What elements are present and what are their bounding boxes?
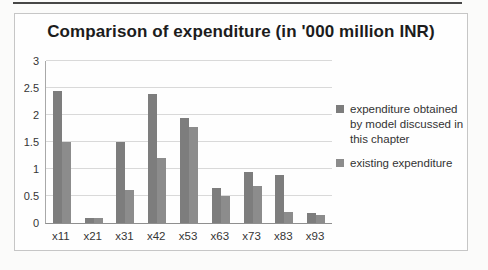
bar-group-x83 bbox=[268, 61, 300, 223]
bar-group-x21 bbox=[78, 61, 110, 223]
y-tick-0: 0 bbox=[33, 217, 39, 229]
y-tick-1: 1 bbox=[33, 163, 39, 175]
x-tick-x53: x53 bbox=[172, 230, 204, 242]
bar-x93-series2 bbox=[316, 215, 325, 223]
bar-x31-series2 bbox=[125, 190, 134, 223]
legend-marker-existing-icon bbox=[336, 159, 344, 167]
x-tick-x21: x21 bbox=[77, 230, 109, 242]
legend-label-model: expenditure obtained by model discussed … bbox=[350, 102, 472, 147]
bar-group-x53 bbox=[173, 61, 205, 223]
x-tick-x83: x83 bbox=[267, 230, 299, 242]
y-tick-2: 2 bbox=[33, 109, 39, 121]
bar-x73-series2 bbox=[253, 186, 262, 223]
x-tick-x31: x31 bbox=[109, 230, 141, 242]
legend-item-existing: existing expenditure bbox=[336, 156, 472, 171]
bar-x21-series2 bbox=[94, 218, 103, 223]
bar-x53-series2 bbox=[189, 127, 198, 223]
plot-area bbox=[45, 61, 332, 224]
y-tick-0.5: 0.5 bbox=[24, 190, 39, 202]
x-tick-x42: x42 bbox=[140, 230, 172, 242]
bar-x93-series1 bbox=[307, 213, 316, 223]
bar-x63-series2 bbox=[221, 196, 230, 223]
chart-title: Comparison of expenditure (in '000 milli… bbox=[21, 22, 461, 42]
bar-group-x93 bbox=[300, 61, 332, 223]
bar-group-x31 bbox=[110, 61, 142, 223]
bar-group-x42 bbox=[141, 61, 173, 223]
bar-x42-series1 bbox=[148, 94, 157, 223]
legend-marker-model-icon bbox=[336, 105, 344, 113]
bar-x53-series1 bbox=[180, 118, 189, 223]
bar-x63-series1 bbox=[212, 188, 221, 223]
legend: expenditure obtained by model discussed … bbox=[336, 102, 472, 171]
bar-x73-series1 bbox=[244, 172, 253, 223]
x-tick-x11: x11 bbox=[45, 230, 77, 242]
legend-label-existing: existing expenditure bbox=[350, 156, 452, 171]
bar-group-x11 bbox=[46, 61, 78, 223]
x-tick-x73: x73 bbox=[236, 230, 268, 242]
x-axis-labels: x11x21x31x42x53x63x73x83x93 bbox=[45, 230, 331, 242]
bar-x42-series2 bbox=[157, 158, 166, 223]
y-tick-1.5: 1.5 bbox=[24, 136, 39, 148]
y-tick-2.5: 2.5 bbox=[24, 82, 39, 94]
bar-x21-series1 bbox=[85, 218, 94, 223]
legend-item-model: expenditure obtained by model discussed … bbox=[336, 102, 472, 147]
chart-frame: Comparison of expenditure (in '000 milli… bbox=[14, 13, 468, 251]
x-tick-x93: x93 bbox=[299, 230, 331, 242]
bar-group-x63 bbox=[205, 61, 237, 223]
y-axis-labels: 00.511.522.53 bbox=[17, 61, 41, 223]
top-rule-line bbox=[13, 2, 462, 4]
bar-group-x73 bbox=[237, 61, 269, 223]
bar-x11-series2 bbox=[62, 142, 71, 223]
y-tick-3: 3 bbox=[33, 55, 39, 67]
bar-x83-series2 bbox=[284, 212, 293, 223]
bar-x11-series1 bbox=[53, 91, 62, 223]
bar-x83-series1 bbox=[275, 175, 284, 223]
bar-x31-series1 bbox=[116, 142, 125, 223]
x-tick-x63: x63 bbox=[204, 230, 236, 242]
